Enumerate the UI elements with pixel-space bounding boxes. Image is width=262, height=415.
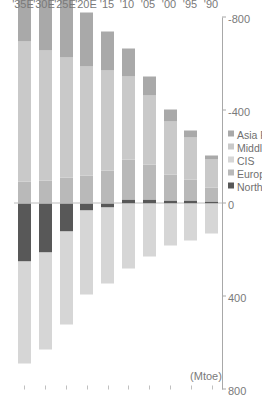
legend-swatch-icon [228,143,234,149]
category-tick [128,385,129,389]
stacked-bar-chart: (Mtoe) 8004000-400-800 '90'95'00'05'10'1… [0,0,262,415]
bar-segment [184,203,197,240]
legend-label: Middle East [237,141,262,153]
bar-segment [80,66,93,175]
legend-label: Europe [237,167,262,179]
legend-swatch-icon [228,182,234,188]
value-tick [222,16,226,17]
value-tick-label: 0 [228,198,234,210]
bar-group-05 [143,17,156,389]
bar-segment [18,203,31,261]
bar-segment [80,203,93,210]
bar-segment [164,109,177,121]
bar-segment [101,203,114,207]
bar-segment [122,48,135,76]
bar-segment [60,231,73,324]
bar-group-25E [60,17,73,389]
category-tick [191,385,192,389]
bar-segment [184,179,197,200]
bar-segment [122,199,135,203]
bar-segment [80,175,93,203]
rotated-chart-wrapper: (Mtoe) 8004000-400-800 '90'95'00'05'10'1… [0,0,262,415]
category-tick [24,385,25,389]
bar-segment [60,57,73,178]
legend-swatch-icon [228,156,234,162]
legend-label: Asia Pacific [237,128,262,140]
bar-group-15 [101,17,114,389]
value-tick-label: 400 [228,291,246,303]
bar-segment [143,164,156,199]
bar-segment [80,12,93,65]
bar-segment [18,181,31,203]
bar-segment [18,41,31,181]
category-tick [87,385,88,389]
bar-segment [205,159,218,187]
bar-segment [164,174,177,200]
bar-segment [205,155,218,160]
plot-area [14,17,222,389]
bar-segment [101,207,114,284]
bar-segment [184,137,197,179]
bar-segment [143,95,156,165]
chart-canvas: (Mtoe) 8004000-400-800 '90'95'00'05'10'1… [0,0,262,415]
legend-swatch-icon [228,130,234,136]
bar-segment [39,180,52,203]
category-tick [149,385,150,389]
bar-segment [39,203,52,252]
bar-segment [60,177,73,203]
bar-segment [164,203,177,245]
bar-segment [122,159,135,199]
bar-group-20E [80,17,93,389]
bar-segment [205,187,218,201]
value-tick [222,109,226,110]
category-tick [45,385,46,389]
category-tick [170,385,171,389]
value-tick-label: 800 [228,384,246,396]
bar-segment [101,70,114,170]
legend-item-north-america[interactable]: North America [228,179,262,192]
category-tick [66,385,67,389]
bar-group-95 [184,17,197,389]
chart-legend: North AmericaEuropeCISMiddle EastAsia Pa… [228,0,262,179]
value-tick [222,295,226,296]
bar-segment [122,76,135,160]
category-tick [212,385,213,389]
legend-item-middle-east[interactable]: Middle East [228,140,262,153]
category-tick [108,385,109,389]
legend-label: North America [237,180,262,192]
legend-item-cis[interactable]: CIS [228,153,255,166]
bar-group-10 [122,17,135,389]
bar-segment [60,203,73,231]
bar-segment [39,50,52,180]
bar-segment [143,203,156,256]
legend-swatch-icon [228,169,234,175]
bar-segment [101,31,114,71]
legend-item-asia-pacific[interactable]: Asia Pacific [228,127,262,140]
bar-segment [101,170,114,203]
bar-segment [184,130,197,137]
bar-segment [143,76,156,95]
bar-group-90 [205,17,218,389]
bar-group-30E [39,17,52,389]
bar-segment [80,210,93,294]
bar-group-35E [18,17,31,389]
legend-item-europe[interactable]: Europe [228,166,262,179]
bar-segment [39,252,52,350]
value-tick [222,202,226,203]
bar-group-00 [164,17,177,389]
bar-segment [164,121,177,174]
category-tick-label: '35E [6,0,40,9]
bar-segment [143,199,156,203]
bar-segment [18,261,31,363]
bar-segment [122,203,135,268]
bar-segment [205,203,218,233]
value-tick [222,388,226,389]
legend-label: CIS [237,154,255,166]
